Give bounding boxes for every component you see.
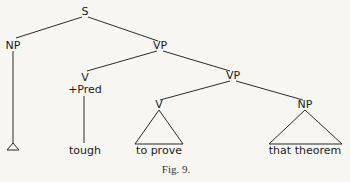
empty-np-triangle-icon	[7, 143, 19, 150]
edge-vp2-v2	[160, 81, 230, 100]
node-v-inner: V	[155, 98, 163, 111]
edge-vp-vp	[163, 51, 230, 71]
edge-s-vp	[88, 17, 158, 41]
leaf-to-prove: to prove	[136, 144, 182, 157]
edge-vp2-np2	[236, 81, 303, 100]
v2-triangle-icon	[135, 110, 183, 144]
syntax-tree-diagram: S NP VP V +Pred tough VP V to prove NP t…	[0, 0, 350, 182]
figure-caption: Fig. 9.	[162, 163, 191, 175]
node-s: S	[82, 5, 89, 18]
node-vp-inner: VP	[226, 69, 241, 82]
node-np-object: NP	[298, 98, 313, 111]
node-v-pred-feature: +Pred	[68, 83, 102, 96]
edge-s-np	[16, 17, 82, 38]
node-np-subject: NP	[6, 39, 21, 52]
leaf-that-theorem: that theorem	[269, 144, 341, 157]
node-vp-main: VP	[153, 39, 168, 52]
leaf-tough: tough	[69, 144, 101, 157]
edge-vp-v	[87, 51, 157, 71]
np2-triangle-icon	[269, 110, 342, 144]
